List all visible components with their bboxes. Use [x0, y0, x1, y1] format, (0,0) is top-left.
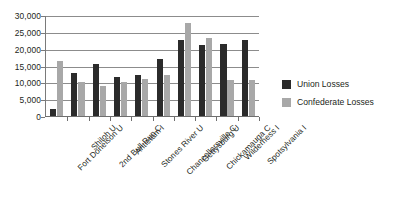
bar-group	[238, 16, 259, 117]
x-axis-label: 2nd Bull Run C	[118, 124, 163, 169]
bar-union	[71, 73, 77, 117]
x-axis-label: Spotsylvania I	[266, 124, 308, 166]
legend-entry-confederate: Confederate Losses	[282, 97, 407, 107]
bar-union	[242, 40, 248, 117]
legend-swatch-icon	[282, 80, 291, 89]
x-axis-tick-mark	[89, 117, 90, 121]
bars-layer	[46, 16, 259, 117]
y-axis-tick-mark	[41, 117, 45, 118]
bar-confederate	[100, 86, 106, 117]
bar-group	[216, 16, 237, 117]
x-axis-tick-mark	[153, 117, 154, 121]
x-axis-tick-mark	[195, 117, 196, 121]
y-axis-tick-label: 25,000	[15, 29, 41, 37]
legend-swatch-icon	[282, 98, 291, 107]
legend-entry-union: Union Losses	[282, 79, 407, 89]
y-axis: 30,000 25,000 20,000 15,000 10,000 5,000…	[0, 11, 44, 117]
bar-confederate	[227, 80, 233, 117]
bar-chart: 30,000 25,000 20,000 15,000 10,000 5,000…	[0, 0, 410, 211]
legend-label: Union Losses	[297, 80, 349, 89]
bar-group	[110, 16, 131, 117]
x-axis-label: Gettysburg U	[201, 124, 241, 164]
x-axis-tick-mark	[174, 117, 175, 121]
x-axis-label: Stones River U	[161, 124, 206, 169]
x-axis-label: Antietam I	[134, 124, 166, 156]
y-axis-tick-mark	[41, 50, 45, 51]
y-axis-tick-mark	[41, 33, 45, 34]
bar-union	[93, 64, 99, 117]
bar-union	[220, 44, 226, 117]
chart-legend: Union Losses Confederate Losses	[282, 79, 407, 115]
bar-union	[199, 45, 205, 117]
bar-group	[195, 16, 216, 117]
bar-group	[46, 16, 67, 117]
x-axis-label: Chickamauga C	[226, 124, 273, 171]
bar-confederate	[121, 82, 127, 117]
bar-confederate	[57, 61, 63, 117]
bar-union	[135, 75, 141, 117]
bar-confederate	[78, 82, 84, 117]
bar-confederate	[164, 75, 170, 117]
x-axis-label: Chancellorsville C	[185, 124, 238, 177]
bar-confederate	[206, 38, 212, 117]
y-axis-tick-mark	[41, 100, 45, 101]
bar-confederate	[185, 23, 191, 117]
x-axis-tick-mark	[259, 117, 260, 121]
y-axis-tick-label: 20,000	[15, 45, 41, 53]
bar-group	[131, 16, 152, 117]
bar-confederate	[142, 79, 148, 117]
x-axis-label: Shiloh U	[90, 124, 118, 152]
y-axis-tick-mark	[41, 16, 45, 17]
bar-union	[157, 59, 163, 117]
x-axis-tick-mark	[216, 117, 217, 121]
bar-union	[178, 40, 184, 117]
x-axis-tick-mark	[67, 117, 68, 121]
y-axis-tick-label: 10,000	[15, 79, 41, 87]
bar-group	[89, 16, 110, 117]
y-axis-tick-label: 5,000	[20, 96, 41, 104]
bar-confederate	[249, 80, 255, 117]
x-axis-tick-mark	[110, 117, 111, 121]
y-axis-tick-label: 30,000	[15, 12, 41, 20]
y-axis-tick-mark	[41, 67, 45, 68]
x-axis-label: Fort Donelson U	[77, 124, 125, 172]
bar-group	[174, 16, 195, 117]
x-axis-tick-mark	[131, 117, 132, 121]
y-axis-tick-label: 15,000	[15, 62, 41, 70]
bar-union	[114, 77, 120, 117]
x-axis-tick-mark	[238, 117, 239, 121]
x-axis-label: Wilderness I	[243, 124, 281, 162]
bar-group	[67, 16, 88, 117]
bar-group	[153, 16, 174, 117]
legend-label: Confederate Losses	[297, 98, 374, 107]
y-axis-tick-mark	[41, 83, 45, 84]
